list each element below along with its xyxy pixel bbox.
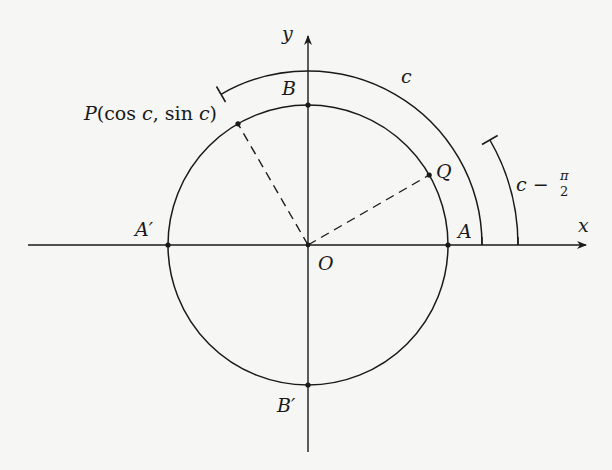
label-P-name: P — [83, 102, 98, 124]
arc-c-label: c — [401, 65, 412, 87]
y-axis-label: y — [281, 22, 293, 44]
label-P-c1: c — [142, 102, 153, 124]
point-B-prime — [305, 382, 310, 387]
fraction-pi: π — [559, 168, 569, 183]
label-A: A — [456, 220, 472, 242]
point-A-prime — [165, 242, 170, 247]
origin-label: O — [318, 252, 334, 274]
arc-c-minus-half-pi-end-tick — [482, 136, 498, 145]
label-A-prime: A′ — [133, 218, 154, 240]
unit-circle-diagram: y x O A A′ B B′ Q P(cos c, sin c) c c − … — [0, 0, 612, 470]
arc-c-minus-half-pi — [490, 140, 518, 245]
label-Q: Q — [436, 160, 452, 182]
fraction-two: 2 — [560, 184, 568, 199]
label-B-prime: B′ — [276, 394, 296, 416]
point-B — [305, 102, 310, 107]
radius-OP — [238, 124, 308, 245]
arc-c — [221, 71, 482, 245]
label-P: P(cos c, sin c) — [83, 102, 217, 124]
x-axis-label: x — [578, 214, 589, 236]
point-A — [445, 242, 450, 247]
label-P-open: (cos — [97, 102, 142, 124]
label-P-close: ) — [210, 102, 217, 124]
label-P-mid: , sin — [153, 102, 199, 124]
arc-c-end-tick — [217, 87, 226, 103]
point-O — [306, 243, 311, 248]
label-B: B — [281, 77, 296, 99]
point-P — [235, 121, 240, 126]
radius-OQ — [308, 175, 429, 245]
arc-c-minus-half-pi-label: c − — [516, 173, 549, 195]
label-P-c2: c — [199, 102, 210, 124]
point-Q — [427, 172, 432, 177]
